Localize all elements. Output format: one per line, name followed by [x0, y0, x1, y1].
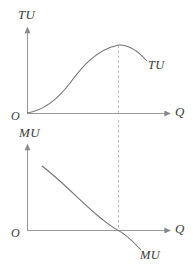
bottom-x-axis-label: Q — [175, 222, 185, 235]
mu-curve — [42, 166, 141, 250]
top-y-axis-label: TU — [18, 8, 35, 21]
tu-curve — [28, 45, 147, 113]
bottom-panel-axes — [25, 144, 171, 234]
bottom-y-axis-arrow-icon — [25, 144, 31, 151]
bottom-y-axis-label: MU — [19, 126, 40, 139]
bottom-origin-label: O — [11, 227, 20, 239]
top-x-axis-arrow-icon — [164, 111, 171, 117]
bottom-x-axis-arrow-icon — [164, 228, 171, 234]
mu-curve-label: MU — [140, 249, 160, 262]
top-origin-label: O — [11, 110, 20, 122]
tu-mu-figure: TU O Q TU MU O Q MU — [0, 0, 193, 275]
tu-curve-label: TU — [148, 59, 165, 72]
top-x-axis-label: Q — [175, 105, 185, 118]
top-y-axis-arrow-icon — [25, 27, 31, 34]
